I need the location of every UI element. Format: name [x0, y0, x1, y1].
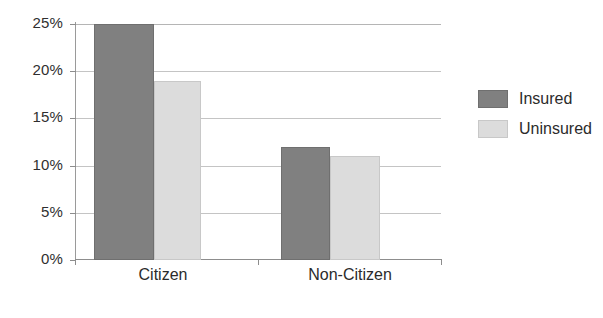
y-tick-label-10: 10%	[3, 156, 63, 173]
y-tick-mark-20	[70, 71, 76, 72]
y-tick-mark-10	[70, 166, 76, 167]
bar-citizen-uninsured	[154, 81, 201, 260]
chart-legend: Insured Uninsured	[478, 84, 592, 144]
legend-label-insured: Insured	[519, 90, 572, 108]
x-axis-label-non-citizen: Non-Citizen	[275, 266, 425, 284]
y-tick-label-15: 15%	[3, 108, 63, 125]
bar-non-citizen-uninsured	[330, 156, 380, 260]
y-tick-label-0: 0%	[3, 250, 63, 267]
legend-swatch-insured	[478, 90, 508, 108]
plot-area: 25% 20% 15% 10% 5% 0%	[75, 24, 441, 260]
y-tick-label-5: 5%	[3, 203, 63, 220]
x-tick-start	[75, 259, 76, 265]
y-tick-label-25: 25%	[3, 14, 63, 31]
legend-swatch-uninsured	[478, 120, 508, 138]
x-tick-end	[441, 259, 442, 265]
y-tick-mark-15	[70, 118, 76, 119]
bar-non-citizen-insured	[281, 147, 330, 260]
y-tick-mark-25	[70, 24, 76, 25]
legend-item-insured: Insured	[478, 84, 592, 114]
x-tick-middle	[258, 259, 259, 265]
bar-chart-figure: 25% 20% 15% 10% 5% 0%	[0, 0, 603, 318]
legend-label-uninsured: Uninsured	[519, 120, 592, 138]
bar-citizen-insured	[94, 24, 154, 260]
legend-item-uninsured: Uninsured	[478, 114, 592, 144]
x-axis-label-citizen: Citizen	[108, 266, 218, 284]
y-tick-mark-5	[70, 213, 76, 214]
y-tick-label-20: 20%	[3, 61, 63, 78]
